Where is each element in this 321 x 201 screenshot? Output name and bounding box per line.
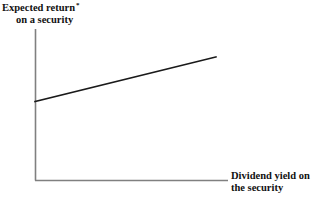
- chart-figure: Expected return* on a security Dividend …: [0, 0, 321, 201]
- x-axis-label-line-1: Dividend yield on: [231, 170, 310, 182]
- x-axis-label: Dividend yield on the security: [231, 170, 310, 193]
- x-axis-label-line-2: the security: [231, 182, 310, 194]
- expected-return-line: [35, 57, 216, 102]
